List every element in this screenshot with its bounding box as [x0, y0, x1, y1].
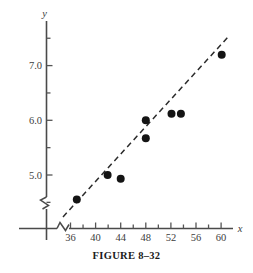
data-point [177, 110, 185, 118]
data-point [168, 110, 176, 118]
x-axis-break-icon [57, 223, 69, 231]
x-tick-label: 40 [90, 232, 101, 243]
x-axis-label: x [237, 223, 243, 234]
y-tick-label: 5.0 [29, 170, 42, 181]
scatter-plot: 36 40 44 48 52 56 60 7.0 6.0 5.0 y x [0, 0, 253, 273]
trend-line [63, 35, 230, 217]
x-tick-label: 60 [216, 232, 227, 243]
y-axis-label: y [41, 8, 47, 19]
data-point [142, 116, 150, 124]
x-tick-label: 36 [65, 232, 76, 243]
x-tick-label: 48 [141, 232, 152, 243]
x-tick-label: 56 [191, 232, 202, 243]
figure-caption: FIGURE 8–32 [0, 250, 253, 261]
figure-container: 36 40 44 48 52 56 60 7.0 6.0 5.0 y x FIG… [0, 0, 253, 273]
data-point [117, 175, 125, 183]
data-point [142, 134, 150, 142]
x-tick-label: 52 [166, 232, 177, 243]
data-point [73, 196, 81, 204]
data-point [104, 171, 112, 179]
data-point [218, 51, 226, 59]
y-tick-label: 7.0 [29, 60, 42, 71]
y-tick-label: 6.0 [29, 115, 42, 126]
x-tick-label: 44 [115, 232, 126, 243]
